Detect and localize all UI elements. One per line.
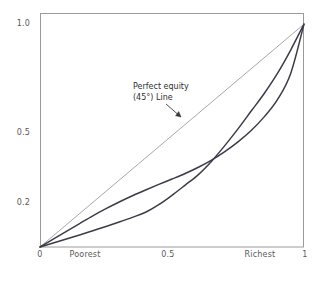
perfect-equity-annotation-line2: (45°) Line [133, 93, 189, 104]
x-tick-label-poorest: Poorest [60, 250, 110, 259]
y-tick-label-1.0: 1.0 [8, 19, 30, 28]
plot-frame [41, 14, 304, 248]
chart-canvas [0, 0, 326, 281]
y-tick-label-0.2: 0.2 [8, 198, 30, 207]
annotation-arrow-icon [166, 104, 181, 117]
perfect-equity-annotation-line1: Perfect equity [133, 82, 189, 93]
lorenz-curve-figure: 1.0 0.5 0.2 0 Poorest 0.5 Richest 1 Perf… [0, 0, 326, 281]
perfect-equity-line [40, 24, 304, 247]
perfect-equity-annotation: Perfect equity (45°) Line [133, 82, 189, 103]
y-tick-label-0.5: 0.5 [8, 128, 30, 137]
x-tick-label-0: 0 [33, 250, 47, 259]
x-tick-label-1: 1 [298, 250, 312, 259]
x-tick-label-0.5: 0.5 [158, 250, 178, 259]
x-tick-label-richest: Richest [238, 250, 282, 259]
